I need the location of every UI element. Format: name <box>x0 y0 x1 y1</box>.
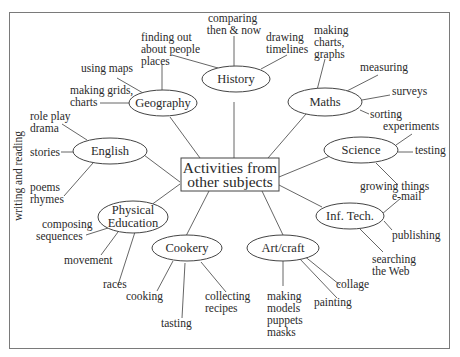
node-label: History <box>217 72 255 86</box>
node-geography: Geography using maps making grids, chart… <box>70 62 197 116</box>
leaf-text: sequences <box>36 230 83 243</box>
leaf-text: testing <box>415 144 446 157</box>
side-label-writing-reading: writing and reading <box>12 131 25 221</box>
leaf-text: e-mail <box>392 190 421 202</box>
node-english: English role play drama stories poems rh… <box>30 110 147 206</box>
svg-text:making charts,: making charts, graphs <box>314 24 351 61</box>
node-history: History comparing then & now finding out… <box>141 12 309 92</box>
leaf-text: surveys <box>392 85 428 98</box>
leaf-text: timelines <box>266 43 309 55</box>
node-cookery: Cookery cooking tasting collecting recip… <box>126 235 253 330</box>
svg-text:comparing then & now: comparing then & now <box>207 12 262 36</box>
leaf-text: measuring <box>360 61 408 74</box>
leaf-text: places <box>141 55 170 68</box>
leaf-text: recipes <box>205 302 238 315</box>
leaf-text: masks <box>267 326 296 338</box>
svg-text:composing sequences: composing sequences <box>36 218 95 243</box>
node-physical-education: Physical Education composing sequences m… <box>36 201 168 290</box>
leaf-text: drama <box>30 122 59 134</box>
leaf-text: painting <box>314 296 352 309</box>
svg-text:making grids, charts: making grids, charts <box>70 84 136 108</box>
leaf-text: charts <box>70 96 98 108</box>
leaf-text: cooking <box>126 290 163 303</box>
leaf-text: movement <box>64 254 113 266</box>
mind-map-diagram: Activities from other subjects writing a… <box>0 0 460 357</box>
leaf-text: stories <box>30 146 61 158</box>
svg-text:finding out about peop: finding out about people places <box>141 31 203 68</box>
node-label: English <box>91 144 130 158</box>
leaf-text: races <box>103 278 127 290</box>
leaf-text: models <box>267 302 301 314</box>
center-topic: Activities from other subjects <box>181 158 279 191</box>
node-label: Science <box>342 143 381 157</box>
center-topic-line2: other subjects <box>187 173 273 190</box>
node-label-line1: Physical <box>112 203 155 217</box>
leaf-text: publishing <box>392 229 441 242</box>
leaf-text: using maps <box>81 62 134 75</box>
node-label: Cookery <box>165 241 209 255</box>
svg-text:role play drama: role play drama <box>30 110 73 134</box>
node-label-line2: Education <box>108 216 159 230</box>
leaf-text: then & now <box>207 24 262 36</box>
leaf-text: the Web <box>372 265 410 277</box>
node-science: Science experiments testing growing thin… <box>324 120 446 193</box>
svg-text:collecting recipes: collecting recipes <box>205 290 253 315</box>
leaf-text: rhymes <box>30 193 64 206</box>
node-label: Art/craft <box>261 241 305 255</box>
svg-text:searching the Web: searching the Web <box>372 253 419 277</box>
svg-text:drawing timelines: drawing timelines <box>266 31 309 55</box>
diagram-canvas: Activities from other subjects writing a… <box>0 0 460 357</box>
leaf-text: experiments <box>383 120 440 133</box>
svg-text:making models: making models puppets masks <box>267 290 306 338</box>
node-art-craft: Art/craft making models puppets masks pa… <box>247 235 369 338</box>
node-label: Inf. Tech. <box>326 209 374 223</box>
leaf-text: graphs <box>314 48 345 61</box>
node-information-technology: Inf. Tech. e-mail publishing searching t… <box>316 190 441 277</box>
node-label: Geography <box>135 96 191 110</box>
node-maths: Maths making charts, graphs measuring su… <box>288 24 428 121</box>
leaf-text: tasting <box>161 317 192 330</box>
svg-text:poems rhymes: poems rhymes <box>30 181 64 206</box>
leaf-text: collage <box>336 278 369 291</box>
node-label: Maths <box>309 95 340 109</box>
